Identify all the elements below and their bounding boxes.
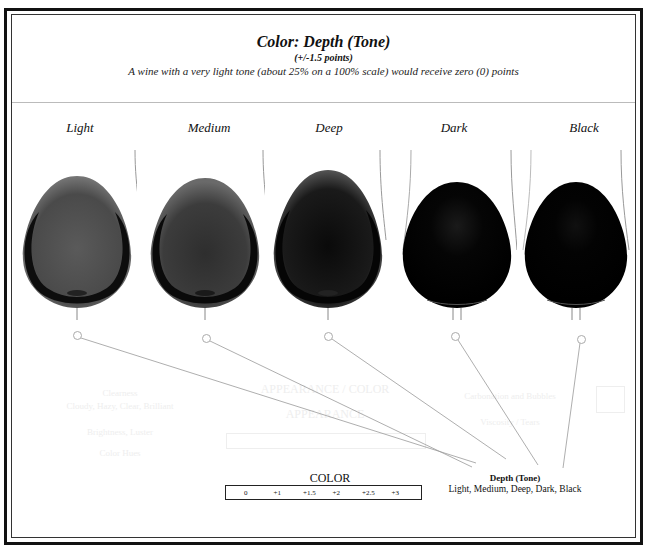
faded-text: Clearness bbox=[45, 387, 195, 400]
label-deep: Deep bbox=[279, 120, 379, 136]
wine-glass-black bbox=[521, 150, 641, 320]
marker-light bbox=[73, 331, 82, 340]
depth-callout: Depth (Tone) Light, Medium, Deep, Dark, … bbox=[440, 473, 590, 494]
faded-appearance-heading: APPEARANCE / COLOR APPEARANCE bbox=[240, 383, 410, 421]
points-range: (+/-1.5 points) bbox=[12, 52, 635, 63]
scale-value: +3 bbox=[392, 489, 422, 497]
faded-text: Color Hues bbox=[45, 447, 195, 460]
faded-hues-block: Color Hues bbox=[45, 447, 195, 460]
wine-glass-deep bbox=[268, 150, 388, 320]
faded-text: Cloudy, Hazy, Clear, Brilliant bbox=[45, 400, 195, 413]
depth-title: Depth (Tone) bbox=[440, 473, 590, 483]
label-black: Black bbox=[534, 120, 634, 136]
marker-dark bbox=[451, 332, 460, 341]
label-light: Light bbox=[30, 120, 130, 136]
wine-glass-medium bbox=[145, 150, 265, 320]
faded-text: Carbonation and Bubbles bbox=[455, 390, 565, 403]
header: Color: Depth (Tone) (+/-1.5 points) A wi… bbox=[12, 15, 635, 100]
description: A wine with a very light tone (about 25%… bbox=[12, 65, 635, 77]
marker-deep bbox=[324, 332, 333, 341]
header-divider bbox=[12, 102, 635, 103]
scale-value: +1.5 bbox=[303, 489, 333, 497]
faded-text: APPEARANCE / COLOR bbox=[240, 383, 410, 396]
faded-text: Viscosity / Tears bbox=[455, 416, 565, 429]
label-dark: Dark bbox=[404, 120, 504, 136]
faded-square bbox=[596, 386, 625, 413]
marker-black bbox=[577, 335, 586, 344]
faded-text: APPEARANCE bbox=[240, 408, 410, 421]
label-medium: Medium bbox=[159, 120, 259, 136]
marker-medium bbox=[202, 334, 211, 343]
scale-value: 0 bbox=[244, 489, 274, 497]
color-scale: 0 +1 +1.5 +2 +2.5 +3 bbox=[225, 485, 422, 500]
wine-glass-dark bbox=[397, 150, 517, 320]
wine-glass-light bbox=[17, 150, 137, 320]
depth-options: Light, Medium, Deep, Dark, Black bbox=[440, 484, 590, 494]
page-title: Color: Depth (Tone) bbox=[12, 33, 635, 51]
scale-value: +2 bbox=[333, 489, 363, 497]
scale-title: COLOR bbox=[300, 471, 360, 486]
faded-box bbox=[226, 433, 426, 449]
faded-clearness-block: Clearness Cloudy, Hazy, Clear, Brilliant… bbox=[45, 387, 195, 439]
faded-text: Brightness, Luster bbox=[45, 426, 195, 439]
scale-value: +1 bbox=[274, 489, 304, 497]
faded-carbonation-block: Carbonation and Bubbles Viscosity / Tear… bbox=[455, 390, 565, 429]
scale-value: +2.5 bbox=[362, 489, 392, 497]
